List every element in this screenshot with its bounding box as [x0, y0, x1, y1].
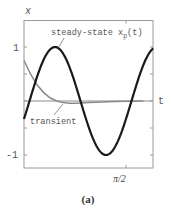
transient-curve [24, 61, 143, 104]
figure-caption: (a) [82, 193, 95, 206]
transient-leader-line [54, 104, 63, 115]
chart-figure: x t 1 -1 π/2 steady-state xp(t) transien… [0, 0, 171, 216]
y-axis-label: x [24, 6, 31, 17]
y-tick-label-1: 1 [13, 43, 19, 54]
transient-annotation: transient [30, 117, 76, 127]
steady-state-annotation: steady-state xp(t) [51, 28, 143, 40]
steady-state-leader-line [59, 38, 64, 47]
y-tick-label-minus-1: -1 [6, 150, 18, 161]
x-axis-label: t [158, 96, 164, 107]
x-tick-label-pi-over-2: π/2 [113, 173, 126, 184]
